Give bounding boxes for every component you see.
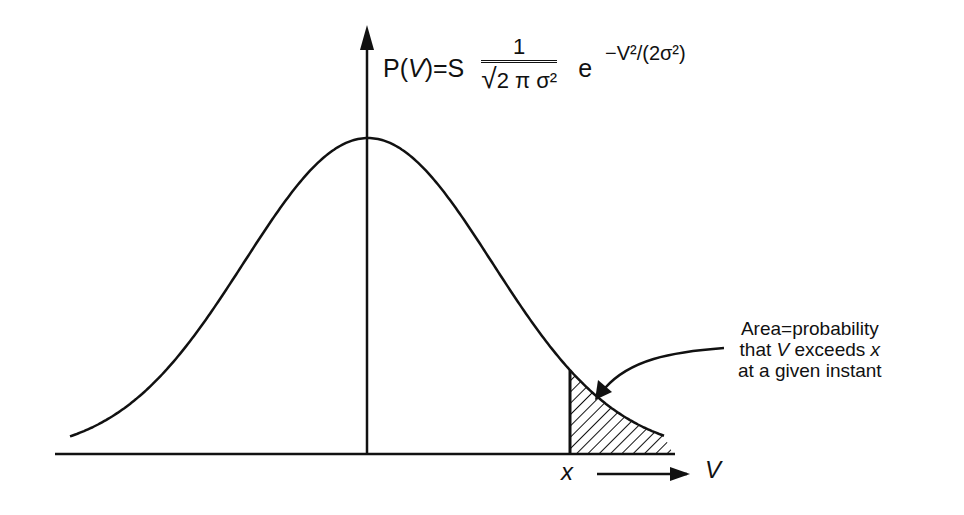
annotation-var-x: x bbox=[871, 339, 881, 360]
annotation-line-3: at a given instant bbox=[738, 360, 882, 381]
formula-exponent: −V²/(2σ²) bbox=[605, 42, 686, 64]
sqrt-icon: √ bbox=[481, 63, 496, 94]
annotation-text: exceeds bbox=[789, 339, 870, 360]
variable-label: V bbox=[705, 456, 721, 484]
area-annotation: Area=probability that V exceeds x at a g… bbox=[738, 318, 882, 381]
formula: P(V)=S 1 √2 π σ² e −V²/(2σ²) bbox=[383, 40, 686, 101]
annotation-line-1: Area=probability bbox=[738, 318, 882, 339]
vertical-axis-arrow-icon bbox=[360, 25, 374, 50]
v-arrowhead-icon bbox=[670, 467, 690, 481]
annotation-var-v: V bbox=[777, 339, 790, 360]
annotation-text: that bbox=[740, 339, 777, 360]
annotation-arrow bbox=[605, 348, 724, 388]
formula-lhs: P(V)=S bbox=[383, 54, 464, 82]
tail-area-shaded bbox=[570, 370, 673, 454]
formula-numerator: 1 bbox=[481, 34, 557, 63]
threshold-label: x bbox=[561, 458, 573, 486]
formula-base: e bbox=[578, 54, 592, 82]
denominator-text: 2 π σ² bbox=[497, 68, 558, 93]
annotation-line-2: that V exceeds x bbox=[738, 339, 882, 360]
formula-denominator: √2 π σ² bbox=[481, 63, 557, 95]
formula-fraction: 1 √2 π σ² bbox=[481, 34, 557, 95]
